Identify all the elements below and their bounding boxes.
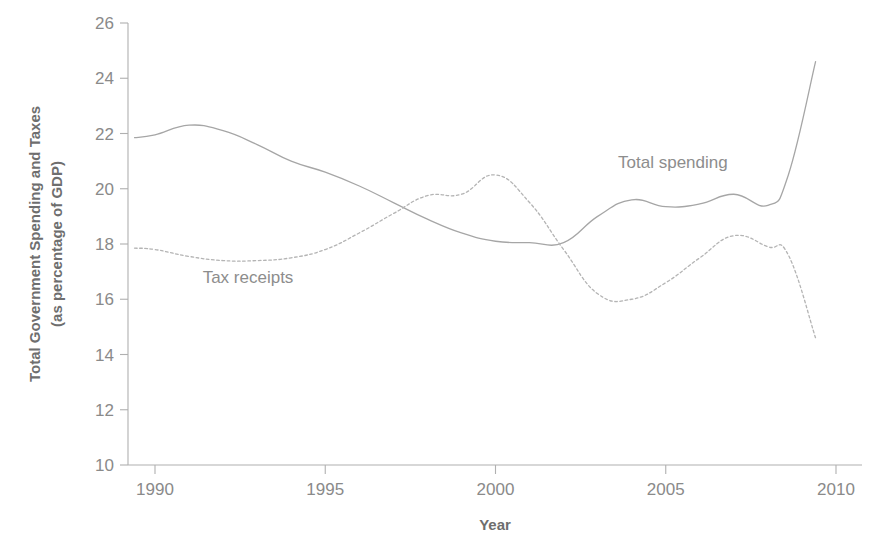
chart-figure: 101214161820222426 19901995200020052010 … [0,0,874,555]
x-tick-label: 2000 [477,480,515,499]
chart-canvas: 101214161820222426 19901995200020052010 … [0,0,874,555]
y-axis-title-line2: (as percentage of GDP) [48,161,65,327]
x-tick-label: 1995 [306,480,344,499]
x-axis-ticks: 19901995200020052010 [136,465,855,499]
total-spending-label: Total spending [618,153,728,172]
y-tick-label: 22 [95,125,114,144]
y-tick-label: 20 [95,180,114,199]
y-axis-title-line1: Total Government Spending and Taxes [26,106,43,382]
x-tick-label: 1990 [136,480,174,499]
x-tick-label: 2005 [647,480,685,499]
tax-receipts-label: Tax receipts [203,268,294,287]
y-tick-label: 18 [95,235,114,254]
y-tick-label: 26 [95,14,114,33]
y-tick-label: 16 [95,290,114,309]
y-tick-label: 24 [95,69,114,88]
x-tick-label: 2010 [817,480,855,499]
x-axis-title: Year [479,516,511,533]
y-tick-label: 10 [95,456,114,475]
y-axis-ticks: 101214161820222426 [95,14,128,475]
y-tick-label: 14 [95,346,114,365]
y-tick-label: 12 [95,401,114,420]
